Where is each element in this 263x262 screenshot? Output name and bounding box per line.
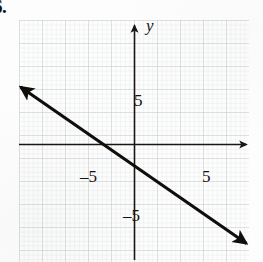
problem-number-label: 6. bbox=[0, 0, 6, 18]
graph-figure: 6. bbox=[0, 0, 263, 262]
coordinate-plane: y x 5 –5 –5 5 bbox=[19, 20, 249, 262]
x-axis-tick-label-5: 5 bbox=[202, 167, 211, 187]
y-axis-label: y bbox=[146, 16, 154, 36]
y-axis-tick-label-negative-5: –5 bbox=[123, 206, 140, 226]
x-axis-tick-label-negative-5: –5 bbox=[80, 167, 97, 187]
y-axis-tick-label-5: 5 bbox=[134, 91, 143, 111]
